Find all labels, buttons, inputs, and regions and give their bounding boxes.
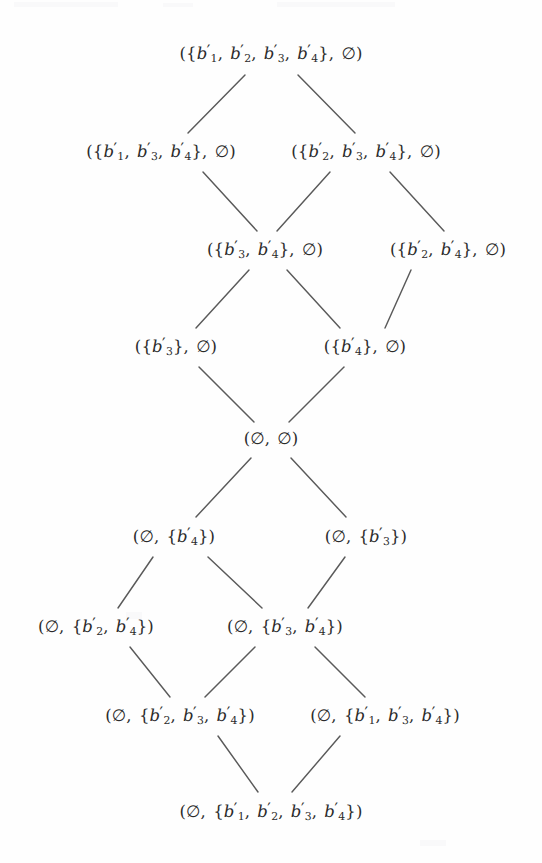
lattice-edge [289, 367, 344, 422]
lattice-edge [208, 557, 262, 608]
lattice-node: (∅, {b′2, b′3, b′4}) [105, 705, 254, 726]
lattice-edge [292, 736, 340, 792]
lattice-edge [196, 458, 251, 517]
lattice-edge [308, 557, 345, 608]
lattice-node: ({b′4}, ∅) [324, 336, 406, 357]
lattice-node: (∅, {b′3, b′4}) [227, 616, 343, 637]
lattice-edge [385, 270, 411, 328]
lattice-edge [188, 75, 245, 133]
lattice-edge [199, 367, 254, 422]
lattice-edge [203, 172, 257, 231]
lattice-node: (∅, ∅) [244, 431, 299, 448]
lattice-node: (∅, {b′2, b′4}) [38, 616, 154, 637]
lattice-edge [291, 458, 346, 517]
lattice-node: ({b′1, b′2, b′3, b′4}, ∅) [180, 43, 363, 64]
lattice-node: (∅, {b′4}) [133, 526, 215, 547]
lattice-edge [277, 172, 330, 231]
lattice-edge [130, 647, 170, 697]
lattice-node: ({b′3}, ∅) [135, 336, 217, 357]
lattice-node: ({b′2, b′4}, ∅) [390, 239, 506, 260]
hasse-diagram-figure: ({b′1, b′2, b′3, b′4}, ∅)({b′1, b′3, b′4… [0, 0, 542, 863]
lattice-node: ({b′3, b′4}, ∅) [207, 239, 323, 260]
lattice-edge [218, 736, 258, 792]
lattice-node: (∅, {b′3}) [325, 526, 407, 547]
lattice-node: (∅, {b′1, b′3, b′4}) [310, 705, 459, 726]
lattice-edge [118, 557, 153, 608]
lattice-edge [298, 75, 355, 133]
lattice-edge [196, 270, 249, 328]
lattice-edge [205, 647, 255, 697]
lattice-node: (∅, {b′1, b′2, b′3, b′4}) [180, 801, 363, 822]
lattice-edge [287, 270, 340, 328]
lattice-edge [390, 172, 444, 231]
lattice-edge [315, 647, 365, 697]
lattice-node: ({b′1, b′3, b′4}, ∅) [86, 141, 235, 162]
lattice-node: ({b′2, b′3, b′4}, ∅) [291, 141, 440, 162]
